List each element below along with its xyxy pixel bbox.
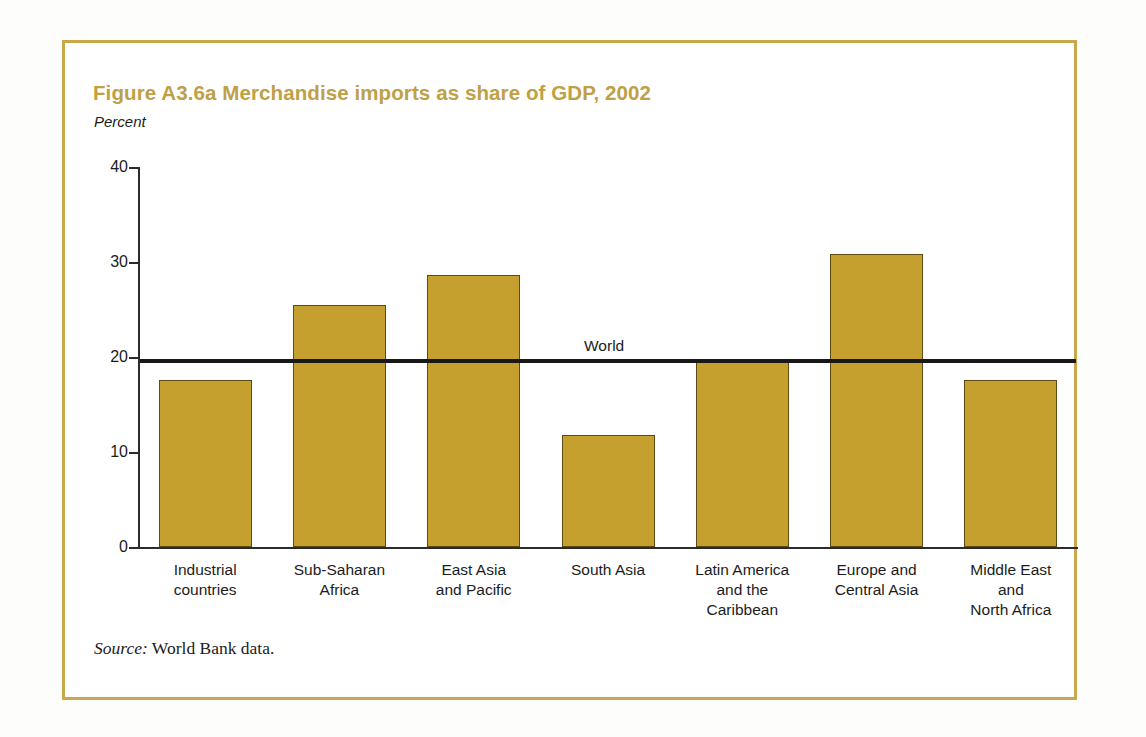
- page-canvas: Figure A3.6a Merchandise imports as shar…: [0, 0, 1146, 737]
- world-reference-line: [140, 359, 1076, 363]
- bar: [293, 305, 386, 547]
- plot-area: 010203040 World IndustrialcountriesSub-S…: [138, 168, 1078, 548]
- y-axis-tick: [129, 452, 140, 454]
- source-note-text: World Bank data.: [148, 638, 275, 658]
- category-label-line: Caribbean: [675, 600, 809, 620]
- y-axis-tick: [129, 262, 140, 264]
- source-note: Source: World Bank data.: [94, 638, 274, 659]
- bar: [830, 254, 923, 547]
- category-label-line: North Africa: [944, 600, 1078, 620]
- x-axis-category-label: East Asiaand Pacific: [407, 560, 541, 600]
- y-axis-tick-label: 20: [68, 348, 128, 366]
- x-axis-category-label: Europe andCentral Asia: [809, 560, 943, 600]
- y-axis-unit-label: Percent: [94, 113, 146, 130]
- bar: [696, 359, 789, 547]
- figure-frame: Figure A3.6a Merchandise imports as shar…: [62, 40, 1077, 700]
- y-axis-tick: [129, 167, 140, 169]
- world-reference-label: World: [584, 337, 624, 355]
- category-label-line: Latin America: [675, 560, 809, 580]
- category-label-line: Africa: [272, 580, 406, 600]
- x-axis-category-label: Sub-SaharanAfrica: [272, 560, 406, 600]
- figure-title: Figure A3.6a Merchandise imports as shar…: [93, 81, 651, 105]
- category-label-line: South Asia: [541, 560, 675, 580]
- bar: [427, 275, 520, 547]
- y-axis-tick: [129, 357, 140, 359]
- x-axis-category-label: Middle EastandNorth Africa: [944, 560, 1078, 620]
- x-axis-category-label: South Asia: [541, 560, 675, 580]
- y-axis-tick-label: 30: [68, 253, 128, 271]
- bar: [159, 380, 252, 547]
- category-label-line: and Pacific: [407, 580, 541, 600]
- bar: [964, 380, 1057, 547]
- source-note-label: Source:: [94, 638, 148, 658]
- category-label-line: East Asia: [407, 560, 541, 580]
- x-axis-category-label: Industrialcountries: [138, 560, 272, 600]
- x-axis-category-label: Latin Americaand theCaribbean: [675, 560, 809, 620]
- category-label-line: and: [944, 580, 1078, 600]
- x-axis-line: [138, 547, 1078, 549]
- y-axis-tick-label: 0: [68, 538, 128, 556]
- category-label-line: and the: [675, 580, 809, 600]
- y-axis-tick: [129, 547, 140, 549]
- category-label-line: countries: [138, 580, 272, 600]
- bar: [562, 435, 655, 547]
- category-label-line: Industrial: [138, 560, 272, 580]
- category-label-line: Central Asia: [809, 580, 943, 600]
- category-label-line: Middle East: [944, 560, 1078, 580]
- category-label-line: Europe and: [809, 560, 943, 580]
- category-label-line: Sub-Saharan: [272, 560, 406, 580]
- y-axis-tick-label: 10: [68, 443, 128, 461]
- y-axis-tick-label: 40: [68, 158, 128, 176]
